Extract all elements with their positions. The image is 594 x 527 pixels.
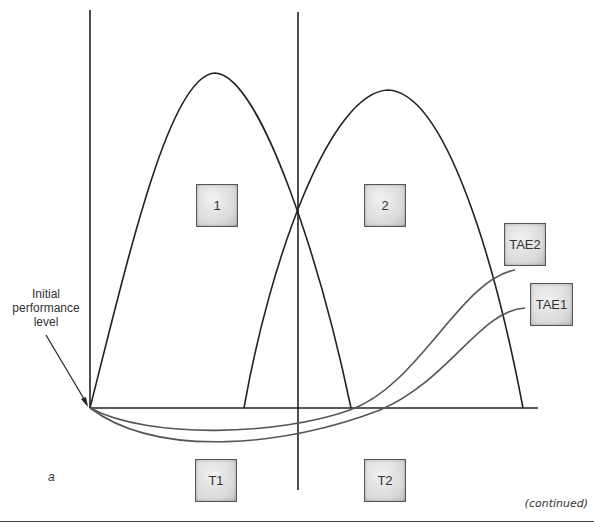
period-box-t2-label: T2 — [377, 473, 392, 488]
period-box-t1: T1 — [195, 459, 237, 502]
continued-note: (continued) — [525, 497, 588, 510]
period-box-t2: T2 — [364, 459, 406, 502]
annotation-line-1: Initial — [4, 287, 88, 301]
trend-box-tae1-label: TAE1 — [536, 297, 568, 312]
annotation-line-2: performance — [4, 301, 88, 315]
panel-label: a — [48, 470, 55, 484]
initial-performance-annotation: Initial performance level — [4, 287, 88, 329]
phase-curve-2 — [244, 90, 523, 408]
phase-box-1: 1 — [196, 184, 238, 227]
phase-box-2: 2 — [364, 184, 406, 227]
annotation-line-3: level — [4, 315, 88, 329]
phase-curve-1 — [90, 73, 351, 408]
trend-curve-tae2 — [90, 270, 515, 430]
phase-box-1-label: 1 — [213, 198, 220, 213]
trend-box-tae2: TAE2 — [504, 223, 546, 266]
phase-box-2-label: 2 — [381, 198, 388, 213]
annotation-arrow-line — [46, 335, 87, 404]
annotation-arrowhead-icon — [81, 397, 88, 407]
trend-box-tae2-label: TAE2 — [509, 237, 541, 252]
trend-box-tae1: TAE1 — [530, 283, 573, 326]
period-box-t1-label: T1 — [208, 473, 223, 488]
footer-rule — [0, 521, 594, 522]
